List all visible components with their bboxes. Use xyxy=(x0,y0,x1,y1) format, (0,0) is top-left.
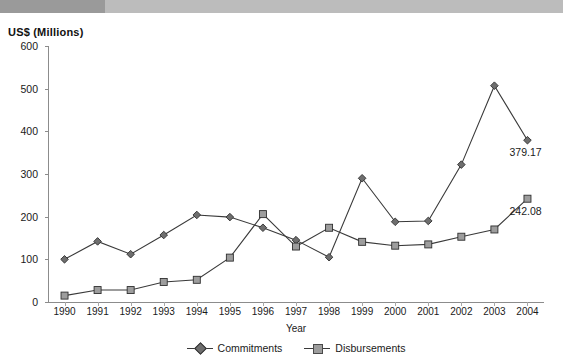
data-point-commitments-1996[interactable] xyxy=(259,224,267,232)
data-point-disbursements-2001[interactable] xyxy=(425,241,432,248)
x-tick-label-1990: 1990 xyxy=(53,306,75,317)
x-tick-mark-2004 xyxy=(527,302,528,306)
x-tick-label-1993: 1993 xyxy=(153,306,175,317)
y-tick-mark-0 xyxy=(45,302,49,303)
x-tick-mark-1992 xyxy=(131,302,132,306)
x-tick-label-1996: 1996 xyxy=(252,306,274,317)
x-tick-label-2004: 2004 xyxy=(516,306,538,317)
x-tick-mark-1996 xyxy=(263,302,264,306)
y-tick-label-100: 100 xyxy=(4,253,38,265)
data-point-commitments-1993[interactable] xyxy=(160,231,168,239)
x-tick-label-2000: 2000 xyxy=(384,306,406,317)
data-point-disbursements-1997[interactable] xyxy=(293,243,300,250)
y-axis-title: US$ (Millions) xyxy=(8,26,84,38)
data-point-commitments-2001[interactable] xyxy=(424,217,432,225)
x-tick-label-1999: 1999 xyxy=(351,306,373,317)
chart-legend: Commitments Disbursements xyxy=(48,342,544,354)
x-tick-label-1991: 1991 xyxy=(86,306,108,317)
x-tick-label-1997: 1997 xyxy=(285,306,307,317)
data-point-disbursements-2002[interactable] xyxy=(458,233,465,240)
data-point-disbursements-1990[interactable] xyxy=(61,292,68,299)
x-tick-label-2001: 2001 xyxy=(417,306,439,317)
x-tick-mark-1994 xyxy=(197,302,198,306)
square-marker-icon xyxy=(304,343,330,353)
data-point-commitments-2004[interactable] xyxy=(524,136,532,144)
x-tick-mark-2000 xyxy=(395,302,396,306)
legend-item-commitments[interactable]: Commitments xyxy=(187,342,283,354)
x-tick-mark-1991 xyxy=(98,302,99,306)
x-tick-mark-1999 xyxy=(362,302,363,306)
legend-item-disbursements[interactable]: Disbursements xyxy=(304,342,405,354)
y-tick-label-500: 500 xyxy=(4,83,38,95)
x-tick-mark-1990 xyxy=(65,302,66,306)
data-point-commitments-2003[interactable] xyxy=(491,82,499,90)
data-point-commitments-1995[interactable] xyxy=(226,213,234,221)
data-label-disbursements-2004: 242.08 xyxy=(509,205,541,217)
y-tick-label-300: 300 xyxy=(4,168,38,180)
x-tick-mark-1993 xyxy=(164,302,165,306)
y-tick-label-600: 600 xyxy=(4,40,38,52)
data-point-commitments-2002[interactable] xyxy=(458,161,466,169)
x-tick-mark-1997 xyxy=(296,302,297,306)
top-banner-left-segment xyxy=(0,0,105,13)
data-point-disbursements-2003[interactable] xyxy=(491,226,498,233)
data-point-commitments-1991[interactable] xyxy=(94,238,102,246)
chart-page: US$ (Millions) 0100200300400500600 19901… xyxy=(0,0,563,364)
x-tick-label-1994: 1994 xyxy=(186,306,208,317)
data-point-disbursements-1991[interactable] xyxy=(94,287,101,294)
x-tick-mark-2002 xyxy=(461,302,462,306)
x-tick-label-1998: 1998 xyxy=(318,306,340,317)
x-tick-mark-1998 xyxy=(329,302,330,306)
y-tick-label-200: 200 xyxy=(4,211,38,223)
top-banner xyxy=(0,0,563,13)
data-point-disbursements-1992[interactable] xyxy=(127,287,134,294)
x-tick-mark-2001 xyxy=(428,302,429,306)
data-point-disbursements-1994[interactable] xyxy=(193,276,200,283)
data-point-disbursements-2000[interactable] xyxy=(392,242,399,249)
x-tick-label-2003: 2003 xyxy=(483,306,505,317)
data-point-commitments-1990[interactable] xyxy=(61,256,69,264)
x-axis-title: Year xyxy=(48,323,544,334)
x-tick-label-1995: 1995 xyxy=(219,306,241,317)
y-tick-label-400: 400 xyxy=(4,125,38,137)
x-tick-mark-2003 xyxy=(494,302,495,306)
legend-label-commitments: Commitments xyxy=(218,342,283,354)
data-label-commitments-2004: 379.17 xyxy=(509,146,541,158)
y-tick-label-0: 0 xyxy=(4,296,38,308)
data-point-disbursements-1996[interactable] xyxy=(259,211,266,218)
data-point-commitments-1992[interactable] xyxy=(127,250,135,258)
data-point-disbursements-1998[interactable] xyxy=(326,224,333,231)
x-tick-mark-1995 xyxy=(230,302,231,306)
data-point-disbursements-1995[interactable] xyxy=(226,254,233,261)
data-point-commitments-1998[interactable] xyxy=(325,253,333,261)
data-point-disbursements-2004[interactable] xyxy=(524,195,531,202)
legend-label-disbursements: Disbursements xyxy=(335,342,405,354)
data-point-commitments-1994[interactable] xyxy=(193,211,201,219)
data-point-disbursements-1993[interactable] xyxy=(160,278,167,285)
data-point-disbursements-1999[interactable] xyxy=(359,238,366,245)
plot-area: 0100200300400500600 19901991199219931994… xyxy=(48,46,544,302)
x-tick-label-1992: 1992 xyxy=(120,306,142,317)
diamond-marker-icon xyxy=(187,343,213,353)
x-tick-label-2002: 2002 xyxy=(450,306,472,317)
series-plot xyxy=(48,46,544,302)
